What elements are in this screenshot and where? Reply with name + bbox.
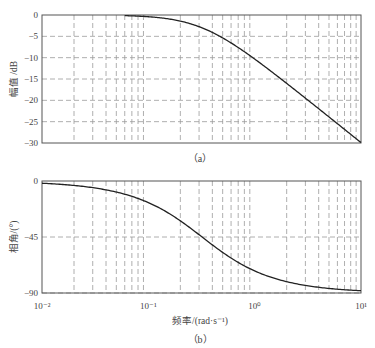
phase-curve [42, 183, 361, 290]
y-tick-label: −90 [24, 288, 39, 298]
y-tick-label: −30 [24, 138, 39, 148]
frequency-x-axis-label: 频率/(rad·s⁻¹) [172, 315, 228, 327]
x-tick-label: 10⁻¹ [140, 301, 157, 311]
bode-plot: 0−5−10−15−20−25−30 0−45−9010⁻²10⁻¹10⁰10¹… [0, 0, 375, 348]
x-tick-label: 10⁻² [34, 301, 51, 311]
x-tick-label: 10⁰ [248, 301, 261, 311]
y-tick-label: 0 [34, 176, 39, 186]
caption-b: （b） [188, 334, 213, 345]
phase-y-axis-label: 相角/(°) [8, 221, 20, 254]
plot-frame [42, 15, 361, 143]
y-tick-label: −45 [24, 232, 39, 242]
y-tick-label: 0 [34, 10, 39, 20]
phase-plot: 0−45−9010⁻²10⁻¹10⁰10¹ [24, 176, 367, 311]
y-tick-label: −15 [24, 74, 39, 84]
x-tick-label: 10¹ [355, 301, 367, 311]
y-tick-label: −10 [24, 53, 39, 63]
caption-a: （a） [188, 153, 212, 164]
y-tick-label: −5 [28, 31, 38, 41]
y-tick-label: −25 [24, 117, 39, 127]
magnitude-y-axis-label: 幅值 /dB [8, 61, 19, 97]
magnitude-plot: 0−5−10−15−20−25−30 [24, 10, 361, 148]
y-tick-label: −20 [24, 95, 39, 105]
